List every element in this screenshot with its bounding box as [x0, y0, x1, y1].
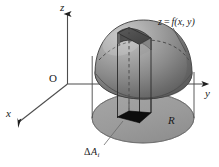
surface-eq-equals: =	[164, 16, 170, 27]
region-label: R	[167, 114, 175, 126]
patch-annotation-label: ΔAi	[84, 146, 100, 159]
svg-text:ΔAi: ΔAi	[84, 146, 100, 159]
patch-label-delta: Δ	[84, 146, 91, 157]
surface-eq-args: (x, y)	[174, 16, 195, 28]
surface-group	[95, 20, 192, 99]
y-axis-label: y	[204, 87, 210, 99]
z-axis-label: z	[59, 1, 65, 13]
column-notch-left-wall	[118, 33, 121, 46]
surface-eq-z: z	[157, 16, 162, 27]
figure-canvas: z y x O R z=f(x, y) ΔAi	[0, 0, 219, 167]
figure-double-integral: z y x O R z=f(x, y) ΔAi	[0, 0, 219, 167]
x-axis	[19, 84, 68, 122]
x-axis-label: x	[5, 107, 11, 119]
origin-label: O	[49, 72, 57, 84]
patch-label-subscript: i	[98, 151, 100, 159]
